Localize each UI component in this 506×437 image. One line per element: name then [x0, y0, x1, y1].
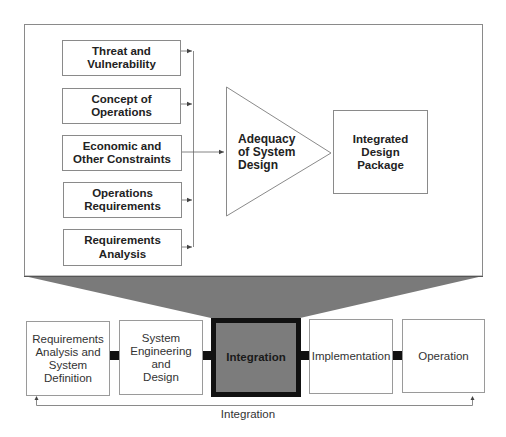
stage-requirements-analysis: Requirements Analysis and System Definit… [26, 321, 110, 396]
input-concept-of-operations: Concept of Operations [62, 88, 181, 124]
input-requirements-analysis: Requirements Analysis [63, 229, 182, 266]
stage-system-engineering: System Engineering and Design [119, 320, 203, 395]
stage-operation: Operation [402, 319, 485, 393]
connector-1 [109, 351, 119, 360]
input-label: Concept of Operations [91, 93, 152, 120]
input-label: Threat and Vulnerability [87, 45, 156, 72]
input-economic-constraints: Economic and Other Constraints [62, 135, 182, 171]
integrated-design-package: Integrated Design Package [333, 110, 428, 194]
connector-4 [392, 351, 402, 360]
feedback-label: Integration [198, 408, 298, 420]
stage-implementation: Implementation [309, 319, 393, 394]
stage-label: Integration [226, 351, 285, 364]
zoom-funnel [24, 276, 483, 318]
input-operations-requirements: Operations Requirements [63, 182, 182, 218]
input-label: Operations Requirements [84, 187, 161, 214]
input-label: Requirements Analysis [84, 234, 161, 261]
feedback-line [37, 398, 473, 406]
stage-label: System Engineering and Design [130, 332, 191, 384]
adequacy-label: Adequacy of System Design [238, 133, 318, 172]
input-threat-vulnerability: Threat and Vulnerability [62, 40, 181, 76]
integration-diagram: Threat and Vulnerability Concept of Oper… [0, 0, 506, 437]
input-label: Economic and Other Constraints [73, 140, 171, 167]
stage-integration-active: Integration [211, 318, 301, 397]
stage-label: Requirements Analysis and System Definit… [32, 333, 104, 385]
output-label: Integrated Design Package [353, 133, 409, 172]
stage-label: Implementation [312, 350, 391, 363]
stage-label: Operation [418, 350, 469, 363]
